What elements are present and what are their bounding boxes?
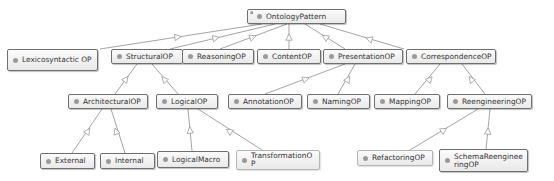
class-circle-icon xyxy=(257,14,262,19)
class-label: AnnotationOP xyxy=(243,98,294,106)
arrowhead-icon xyxy=(187,127,193,134)
edge-LexicosyntacticOP-to-OntologyPattern xyxy=(100,24,262,49)
class-node-StructuralOP[interactable]: StructuralOP xyxy=(111,49,183,64)
arrowhead-icon xyxy=(322,35,329,41)
arrowhead-icon xyxy=(469,76,475,83)
class-label: SchemaReengineeringOP xyxy=(454,153,524,169)
class-circle-icon xyxy=(445,158,450,163)
class-label: CorrespondenceOP xyxy=(421,53,492,61)
class-circle-icon xyxy=(162,99,167,104)
class-label: NamingOP xyxy=(322,98,361,106)
class-label: ContentOP xyxy=(272,53,312,61)
arrowhead-icon xyxy=(484,128,490,135)
edge-SchemaReengineeringOP-to-ReengineeringOP xyxy=(484,109,490,149)
edge-ArchitecturalOP-to-StructuralOP xyxy=(115,64,137,94)
class-circle-icon xyxy=(412,54,417,59)
edge-PresentationOP-to-OntologyPattern xyxy=(305,24,345,49)
class-hierarchy-diagram: aOntologyPatternLexicosyntactic OPStruct… xyxy=(0,0,554,181)
class-node-OntologyPattern[interactable]: aOntologyPattern xyxy=(247,9,346,24)
class-label: Lexicosyntactic OP xyxy=(22,56,91,64)
arrowhead-icon xyxy=(122,76,128,83)
class-label: TransformationOP xyxy=(251,152,316,168)
arrowhead-icon xyxy=(302,77,309,83)
class-label: External xyxy=(55,157,86,165)
class-node-SchemaReengineeringOP[interactable]: SchemaReengineeringOP xyxy=(439,149,528,172)
arrowhead-icon xyxy=(286,34,292,40)
arrowhead-icon xyxy=(162,77,169,84)
edge-Internal-to-ArchitecturalOP xyxy=(111,109,125,153)
class-circle-icon xyxy=(188,54,193,59)
class-circle-icon xyxy=(46,159,51,164)
class-circle-icon xyxy=(453,99,458,104)
class-circle-icon xyxy=(13,58,18,63)
edge-AnnotationOP-to-PresentationOP xyxy=(265,64,345,94)
class-label: ReasoningOP xyxy=(197,53,246,61)
class-label: OntologyPattern xyxy=(266,13,326,21)
class-node-External[interactable]: External xyxy=(40,153,95,169)
class-circle-icon xyxy=(380,99,385,104)
arrowhead-icon xyxy=(249,35,256,41)
arrowhead-icon xyxy=(366,37,373,43)
class-node-Internal[interactable]: Internal xyxy=(100,153,155,169)
class-node-MappingOP[interactable]: MappingOP xyxy=(374,94,440,109)
class-node-NamingOP[interactable]: NamingOP xyxy=(307,94,370,109)
arrowhead-icon xyxy=(212,36,219,42)
arrowhead-icon xyxy=(226,129,233,135)
class-circle-icon xyxy=(74,99,79,104)
class-node-LogicalOP[interactable]: LogicalOP xyxy=(156,94,218,109)
arrowhead-icon xyxy=(425,77,432,84)
class-node-RefactoringOP[interactable]: RefactoringOP xyxy=(357,150,433,166)
class-circle-icon xyxy=(117,54,122,59)
class-circle-icon xyxy=(234,99,239,104)
edge-ContentOP-to-OntologyPattern xyxy=(286,24,292,49)
class-node-ReasoningOP[interactable]: ReasoningOP xyxy=(182,49,254,64)
class-circle-icon xyxy=(363,156,368,161)
arrowhead-icon xyxy=(84,128,90,135)
class-circle-icon xyxy=(106,159,111,164)
class-label: RefactoringOP xyxy=(372,154,425,162)
edge-RefactoringOP-to-ReengineeringOP xyxy=(410,109,478,150)
arrowhead-icon xyxy=(440,128,447,134)
class-label: StructuralOP xyxy=(126,53,173,61)
class-node-LexicosyntacticOP[interactable]: Lexicosyntactic OP xyxy=(7,49,98,71)
class-node-ArchitecturalOP[interactable]: ArchitecturalOP xyxy=(68,94,148,109)
edge-MappingOP-to-CorrespondenceOP xyxy=(415,64,440,94)
class-label: MappingOP xyxy=(389,98,431,106)
class-label: LogicalMacro xyxy=(172,156,220,164)
class-label: PresentationOP xyxy=(338,53,395,61)
root-marker-icon: a xyxy=(250,10,253,15)
class-circle-icon xyxy=(263,54,268,59)
class-circle-icon xyxy=(242,158,247,163)
class-node-ContentOP[interactable]: ContentOP xyxy=(257,49,321,64)
arrowhead-icon xyxy=(174,34,181,40)
class-node-LogicalMacro[interactable]: LogicalMacro xyxy=(157,151,229,168)
class-node-ReengineeringOP[interactable]: ReengineeringOP xyxy=(447,94,532,109)
class-circle-icon xyxy=(329,54,334,59)
edge-StructuralOP-to-OntologyPattern xyxy=(170,24,275,49)
class-node-AnnotationOP[interactable]: AnnotationOP xyxy=(228,94,302,109)
edge-ReasoningOP-to-OntologyPattern xyxy=(220,24,287,49)
edge-LogicalMacro-to-LogicalOP xyxy=(187,109,193,151)
class-node-CorrespondenceOP[interactable]: CorrespondenceOP xyxy=(406,49,496,64)
arrowhead-icon xyxy=(114,128,120,135)
class-label: LogicalOP xyxy=(171,98,207,106)
class-node-TransformationOP[interactable]: TransformationOP xyxy=(236,150,320,170)
class-label: Internal xyxy=(115,157,143,165)
class-label: ArchitecturalOP xyxy=(83,98,141,106)
edge-NamingOP-to-PresentationOP xyxy=(338,64,355,94)
arrowhead-icon xyxy=(344,76,350,83)
class-label: ReengineeringOP xyxy=(462,98,526,106)
class-node-PresentationOP[interactable]: PresentationOP xyxy=(323,49,403,64)
class-circle-icon xyxy=(163,157,168,162)
edge-CorrespondenceOP-to-OntologyPattern xyxy=(320,24,404,49)
edge-LogicalOP-to-StructuralOP xyxy=(152,64,178,94)
edge-External-to-ArchitecturalOP xyxy=(72,109,102,153)
edge-TransformationOP-to-LogicalOP xyxy=(198,109,262,150)
class-circle-icon xyxy=(313,99,318,104)
edge-ReengineeringOP-to-CorrespondenceOP xyxy=(462,64,485,94)
